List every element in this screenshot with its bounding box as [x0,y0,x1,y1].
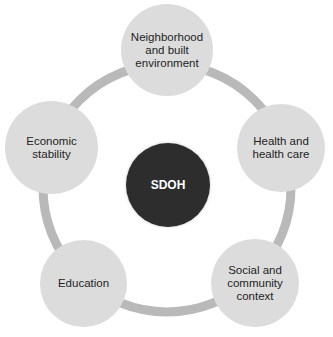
center-label: SDOH [151,178,186,192]
node-education: Education [40,240,127,327]
node-label: Economic stability [20,135,84,161]
node-neighborhood-built-environment: Neighborhood and built environment [121,4,213,96]
node-social-and-community-context: Social and community context [211,239,299,327]
node-label: Social and community context [222,264,288,303]
node-label: Education [58,277,109,290]
node-label: Neighborhood and built environment [127,31,207,70]
center-node-sdoh: SDOH [126,143,210,227]
node-health-and-health-care: Health and health care [237,104,325,192]
node-label: Health and health care [248,135,314,161]
node-economic-stability: Economic stability [5,101,98,194]
